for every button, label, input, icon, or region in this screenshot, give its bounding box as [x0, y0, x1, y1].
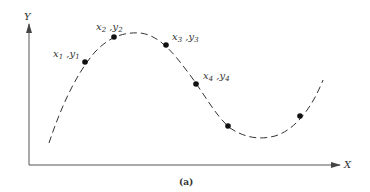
dashed-curve	[49, 33, 323, 143]
point-label-3: x3 ,y3	[172, 31, 199, 44]
data-point-6	[297, 113, 303, 119]
data-point-4	[193, 81, 199, 87]
point-label-1: x1 ,y1	[53, 48, 80, 61]
figure-caption: (a)	[179, 177, 193, 187]
y-axis-label: Y	[24, 11, 32, 22]
data-point-5	[225, 123, 231, 129]
point-label-2: x2 ,y2	[96, 21, 123, 34]
data-point-3	[163, 42, 169, 48]
data-point-2	[111, 34, 117, 40]
point-label-4: x4 ,y4	[203, 70, 230, 83]
curve-diagram: Y X x1 ,y1 x2 ,y2 x3 ,y3 x4 ,y4 (a)	[0, 0, 370, 192]
x-axis-label: X	[343, 159, 352, 170]
data-point-1	[82, 59, 88, 65]
